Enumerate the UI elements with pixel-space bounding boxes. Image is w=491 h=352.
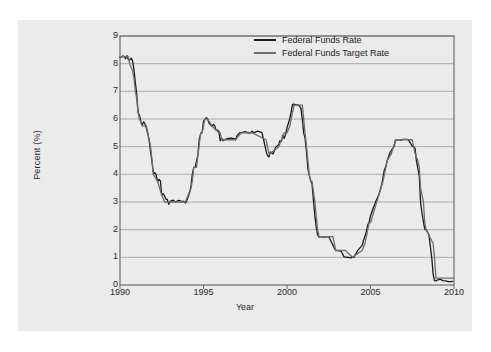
chart-legend: Federal Funds Rate Federal Funds Target … <box>254 33 389 59</box>
chart-page: 0123456789 19901995200020052010 Percent … <box>0 0 491 352</box>
y-axis-title: Percent (%) <box>32 115 42 195</box>
y-tick-label: 7 <box>98 86 118 95</box>
y-tick-label: 9 <box>98 31 118 40</box>
x-tick-label: 1990 <box>100 288 140 297</box>
x-tick-label: 2000 <box>267 288 307 297</box>
x-tick-label: 1995 <box>184 288 224 297</box>
y-tick-label: 4 <box>98 169 118 178</box>
y-tick-label: 5 <box>98 142 118 151</box>
x-axis-title: Year <box>18 302 472 312</box>
legend-label-federal-funds-target-rate: Federal Funds Target Rate <box>282 48 389 58</box>
x-tick-label: 2010 <box>434 288 474 297</box>
legend-swatch-federal-funds-target-rate <box>254 52 276 54</box>
legend-item-0: Federal Funds Rate <box>254 33 389 46</box>
figure-panel: 0123456789 19901995200020052010 Percent … <box>18 20 472 331</box>
legend-swatch-federal-funds-rate <box>254 39 276 41</box>
y-tick-label: 3 <box>98 197 118 206</box>
y-tick-label: 1 <box>98 252 118 261</box>
x-tick-label: 2005 <box>351 288 391 297</box>
line-chart-plot <box>18 20 472 331</box>
y-tick-label: 2 <box>98 225 118 234</box>
legend-item-1: Federal Funds Target Rate <box>254 46 389 59</box>
y-tick-label: 6 <box>98 114 118 123</box>
legend-label-federal-funds-rate: Federal Funds Rate <box>282 35 362 45</box>
y-axis-ticks: 0123456789 <box>96 20 118 331</box>
gridlines <box>120 36 454 285</box>
y-tick-label: 8 <box>98 59 118 68</box>
x-axis-ticks: 19901995200020052010 <box>18 288 472 302</box>
